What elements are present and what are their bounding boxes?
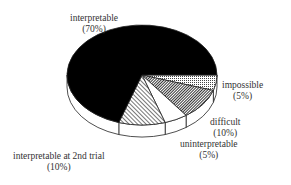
label-uninterpretable: uninterpretable (5%) <box>180 139 238 161</box>
label-interpretable: interpretable (70%) <box>70 13 118 35</box>
label-name: difficult <box>210 117 240 128</box>
label-impossible: impossible (5%) <box>222 80 263 102</box>
label-difficult: difficult (10%) <box>210 117 240 139</box>
label-name: interpretable <box>70 13 118 24</box>
pie-body <box>67 25 217 137</box>
label-name: uninterpretable <box>180 139 238 150</box>
label-pct: (10%) <box>210 128 240 139</box>
label-name: interpretable at 2nd trial <box>13 151 105 162</box>
label-pct: (10%) <box>13 162 105 173</box>
label-pct: (5%) <box>180 150 238 161</box>
label-interpretable-2nd-trial: interpretable at 2nd trial (10%) <box>13 151 105 173</box>
label-pct: (5%) <box>222 91 263 102</box>
label-name: impossible <box>222 80 263 91</box>
label-pct: (70%) <box>70 24 118 35</box>
